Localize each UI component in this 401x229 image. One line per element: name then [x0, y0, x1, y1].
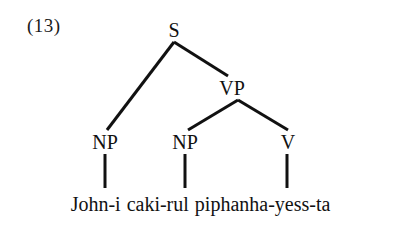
terminal-word: caki-rul [127, 194, 189, 214]
tree-node-verb-phrase-node: VP [219, 78, 245, 98]
tree-branch-s-to-np1 [107, 42, 174, 130]
tree-node-verb-node: V [281, 132, 295, 152]
terminal-word: piphanha-yess-ta [195, 194, 331, 214]
syntax-tree-figure: (13) SVPNPNPV John-icaki-rulpiphanha-yes… [0, 0, 401, 229]
terminal-string-row: John-icaki-rulpiphanha-yess-ta [0, 194, 401, 214]
tree-node-object-noun-phrase-node: NP [172, 132, 198, 152]
tree-node-subject-noun-phrase-node: NP [92, 132, 118, 152]
terminal-word: John-i [71, 194, 121, 214]
tree-branch-s-to-vp [174, 42, 228, 76]
tree-branch-vp-to-np2 [188, 100, 238, 130]
tree-node-root-sentence-node: S [168, 20, 179, 40]
tree-branch-vp-to-v [238, 100, 288, 130]
